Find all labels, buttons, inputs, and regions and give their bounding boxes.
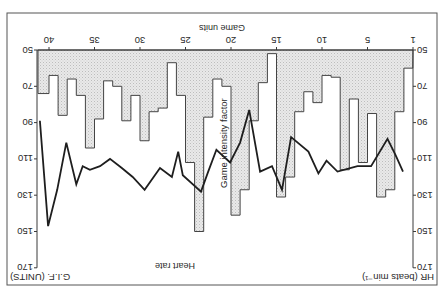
hr-tick-label: 50 <box>417 45 428 56</box>
gif-tick-label: 90 <box>22 117 33 128</box>
hr-tick-label: 70 <box>417 81 428 92</box>
gif-heart-rate-chart: 507090110130150170 507090110130150170 15… <box>0 0 443 294</box>
gif-tick-label: 110 <box>18 153 33 164</box>
x-axis-title: Game units <box>198 23 245 33</box>
gif-annotation: Game intensity factor <box>218 98 229 188</box>
gif-axis-title: G.I.F. (UNITS) <box>10 272 70 283</box>
game-unit-tick-label: 40 <box>44 35 55 46</box>
game-unit-tick-label: 1 <box>410 35 415 46</box>
game-unit-tick-label: 20 <box>226 35 237 46</box>
hr-axis: 507090110130150170 <box>413 45 433 274</box>
hr-tick-label: 150 <box>417 226 433 237</box>
hr-tick-label: 130 <box>417 190 433 201</box>
hr-tick-label: 90 <box>417 117 428 128</box>
heart-rate-annotation: Heart rate <box>155 261 195 271</box>
gif-tick-label: 170 <box>17 262 33 273</box>
gif-tick-label: 50 <box>22 45 33 56</box>
gif-tick-label: 150 <box>17 226 33 237</box>
game-units-axis: 1510152025303540 <box>37 35 416 50</box>
game-unit-tick-label: 25 <box>180 35 191 46</box>
hr-tick-label: 110 <box>417 153 432 164</box>
game-unit-tick-label: 15 <box>271 35 282 46</box>
game-unit-tick-label: 30 <box>135 35 146 46</box>
gif-axis: 507090110130150170 <box>17 45 37 274</box>
game-unit-tick-label: 5 <box>365 35 370 46</box>
hr-axis-title: HR (beats min⁻¹) <box>362 272 434 283</box>
hr-tick-label: 170 <box>417 262 433 273</box>
gif-tick-label: 70 <box>22 81 33 92</box>
gif-tick-label: 130 <box>17 190 33 201</box>
game-unit-tick-label: 10 <box>317 35 328 46</box>
game-unit-tick-label: 35 <box>89 35 100 46</box>
